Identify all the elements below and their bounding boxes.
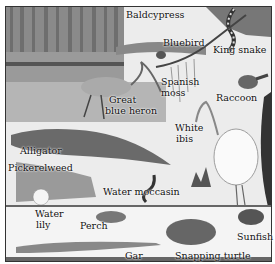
label-baldcypress: Baldcypress: [126, 10, 184, 20]
label-sunfish: Sunfish: [237, 232, 273, 242]
label-water-moccasin: Water moccasin: [103, 187, 180, 197]
label-pickerelweed: Pickerelweed: [8, 163, 73, 173]
label-water-lily-2: lily: [36, 220, 50, 230]
label-heron-2: blue heron: [105, 106, 157, 116]
label-raccoon: Raccoon: [216, 93, 257, 103]
label-perch: Perch: [80, 221, 108, 231]
label-bluebird: Bluebird: [163, 38, 205, 48]
label-spanish-moss-1: Spanish: [161, 77, 199, 87]
label-heron-1: Great: [109, 95, 136, 105]
label-king-snake: King snake: [213, 45, 266, 55]
label-gar: Gar: [125, 251, 143, 261]
label-water-lily-1: Water: [35, 209, 64, 219]
label-ibis-2: ibis: [176, 134, 193, 144]
label-spanish-moss-2: moss: [161, 88, 185, 98]
label-ibis-1: White: [175, 123, 203, 133]
label-snapping-turtle: Snapping turtle: [175, 251, 251, 261]
label-alligator: Alligator: [20, 146, 62, 156]
